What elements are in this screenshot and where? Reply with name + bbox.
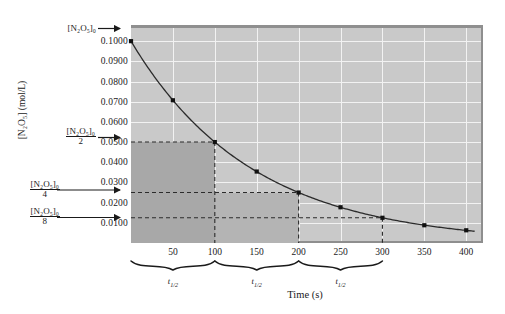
half-life-label: t1/2 [143, 276, 203, 288]
concentration-annotation: [N₂O₅]₀4 [30, 180, 60, 200]
gridline-vertical [424, 25, 425, 241]
gridline-horizontal [131, 82, 481, 83]
annotation-denominator: 2 [66, 137, 96, 146]
y-axis-tick-label: 0.0700 [82, 97, 128, 107]
plot-area [131, 25, 483, 243]
concentration-annotation: [N₂O₅]₀8 [30, 207, 60, 227]
half-life-subscript: 1/2 [254, 282, 262, 288]
kinetics-decay-figure: 0.10000.09000.08000.07000.06000.05000.04… [0, 0, 505, 314]
half-life-label: t1/2 [311, 276, 371, 288]
half-life-subscript: 1/2 [338, 282, 346, 288]
concentration-annotation: [N₂O₅]₀ [68, 23, 96, 33]
half-life-brace [131, 261, 215, 270]
y-axis-tick-label: 0.0400 [82, 157, 128, 167]
x-axis-tick-label: 150 [237, 247, 277, 257]
gridline-horizontal [131, 122, 481, 123]
x-axis-tick-label: 350 [404, 247, 444, 257]
gridline-vertical [341, 25, 342, 241]
x-axis-tick-label: 250 [321, 247, 361, 257]
y-axis-title: [N₂O₅] (mol/L) [17, 40, 27, 180]
y-axis-tick-label: 0.0300 [82, 177, 128, 187]
x-axis-tick-label: 400 [446, 247, 486, 257]
y-axis-tick-label: 0.1000 [82, 36, 128, 46]
gridline-horizontal [131, 102, 481, 103]
annotation-denominator: 4 [30, 190, 60, 199]
y-axis-tick-label: 0.0900 [82, 56, 128, 66]
plot-top-border [131, 25, 483, 28]
annotation-label: [N₂O₅]₀ [68, 23, 96, 33]
gridline-horizontal [131, 61, 481, 62]
half-life-brace [215, 261, 299, 270]
y-axis-tick-labels: 0.10000.09000.08000.07000.06000.05000.04… [82, 0, 128, 314]
annotation-denominator: 8 [30, 217, 60, 226]
x-axis-tick-label: 100 [195, 247, 235, 257]
gridline-horizontal [131, 41, 481, 42]
gridline-vertical [382, 25, 383, 241]
y-axis-tick-label: 0.0100 [82, 218, 128, 228]
shaded-region [131, 142, 215, 243]
half-life-subscript: 1/2 [170, 282, 178, 288]
y-axis-tick-label: 0.0200 [82, 198, 128, 208]
concentration-annotation: [N₂O₅]₀2 [66, 127, 96, 147]
x-axis-tick-label: 300 [362, 247, 402, 257]
y-axis-tick-label: 0.0800 [82, 77, 128, 87]
x-axis-tick-label: 200 [279, 247, 319, 257]
half-life-brace [299, 261, 383, 270]
gridline-vertical [299, 25, 300, 241]
x-axis-tick-label: 50 [153, 247, 193, 257]
gridline-vertical [466, 25, 467, 241]
x-axis-title: Time (s) [245, 289, 365, 300]
half-life-label: t1/2 [227, 276, 287, 288]
